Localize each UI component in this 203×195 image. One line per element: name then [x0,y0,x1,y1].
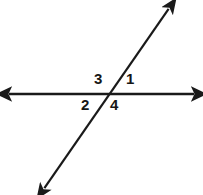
diagonal-line [44,9,168,188]
angle-label-3: 3 [94,71,102,86]
geometry-canvas [0,0,203,195]
angle-label-4: 4 [110,97,118,112]
angle-label-1: 1 [126,71,134,86]
angle-diagram: 1 2 3 4 [0,0,203,195]
angle-label-2: 2 [81,97,89,112]
